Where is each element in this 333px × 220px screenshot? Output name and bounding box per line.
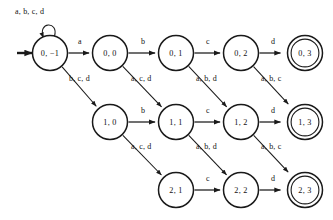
transition-edge-1-2-to-2-3 xyxy=(254,135,289,172)
state-node-1-2[interactable]: 1, 2 xyxy=(224,105,259,140)
transition-label-0-0-to-0-1: b xyxy=(141,37,145,46)
state-label: 0, 3 xyxy=(298,49,311,58)
state-node-2-3[interactable]: 2, 3 xyxy=(288,173,323,208)
transition-label-0-0-to-1-1: a, c, d xyxy=(131,74,152,83)
state-node-0-0[interactable]: 0, 0 xyxy=(93,36,128,71)
state-label: 0, 0 xyxy=(103,49,116,58)
state-label: 2, 3 xyxy=(298,186,311,195)
state-label: 2, 1 xyxy=(169,186,182,195)
transition-edge-0-neg1-to-1-0 xyxy=(62,67,96,106)
automaton-diagram-canvas: 0, −10, 00, 10, 20, 31, 01, 11, 21, 32, … xyxy=(0,0,333,220)
transition-label-0-1-to-1-2: a, b, d xyxy=(196,74,217,83)
transition-edge-0-2-to-1-3 xyxy=(254,67,289,104)
state-node-1-1[interactable]: 1, 1 xyxy=(159,105,194,140)
transition-label-1-2-to-1-3: d xyxy=(271,106,275,115)
state-node-2-2[interactable]: 2, 2 xyxy=(224,173,259,208)
state-node-0-2[interactable]: 0, 2 xyxy=(224,36,259,71)
state-node-0-3[interactable]: 0, 3 xyxy=(288,36,323,71)
state-label: 1, 1 xyxy=(169,118,182,127)
transition-label-2-1-to-2-2: c xyxy=(206,174,210,183)
transition-label-2-2-to-2-3: d xyxy=(271,174,275,183)
state-node-0-neg1[interactable]: 0, −1 xyxy=(33,36,68,71)
transition-label-0-1-to-0-2: c xyxy=(206,37,210,46)
transition-label-1-1-to-2-2: a, b, d xyxy=(196,142,217,151)
state-node-1-0[interactable]: 1, 0 xyxy=(93,105,128,140)
state-label: 0, 1 xyxy=(169,49,182,58)
transition-edge-0-0-to-1-1 xyxy=(123,66,162,107)
state-label: 1, 2 xyxy=(234,118,247,127)
self-loop-label: a, b, c, d xyxy=(15,7,44,16)
state-label: 0, −1 xyxy=(41,49,59,58)
state-node-2-1[interactable]: 2, 1 xyxy=(159,173,194,208)
transition-label-1-2-to-2-3: a, b, c xyxy=(261,142,282,151)
state-node-1-3[interactable]: 1, 3 xyxy=(288,105,323,140)
state-label: 0, 2 xyxy=(234,49,247,58)
state-node-0-1[interactable]: 0, 1 xyxy=(159,36,194,71)
automaton-diagram: 0, −10, 00, 10, 20, 31, 01, 11, 21, 32, … xyxy=(0,0,333,220)
state-label: 2, 2 xyxy=(234,186,247,195)
transition-label-0-neg1-to-0-0: a xyxy=(78,37,82,46)
transition-label-0-2-to-0-3: d xyxy=(271,37,275,46)
state-label: 1, 3 xyxy=(298,118,311,127)
state-label: 1, 0 xyxy=(103,118,116,127)
transition-label-0-2-to-1-3: a, b, c xyxy=(261,74,282,83)
transition-label-1-0-to-2-1: a, c, d xyxy=(131,142,152,151)
transition-label-0-neg1-to-1-0: b, c, d xyxy=(69,74,90,83)
transition-label-1-0-to-1-1: b xyxy=(141,106,145,115)
transition-edge-0-1-to-1-2 xyxy=(189,66,227,106)
transition-label-1-1-to-1-2: c xyxy=(206,106,210,115)
